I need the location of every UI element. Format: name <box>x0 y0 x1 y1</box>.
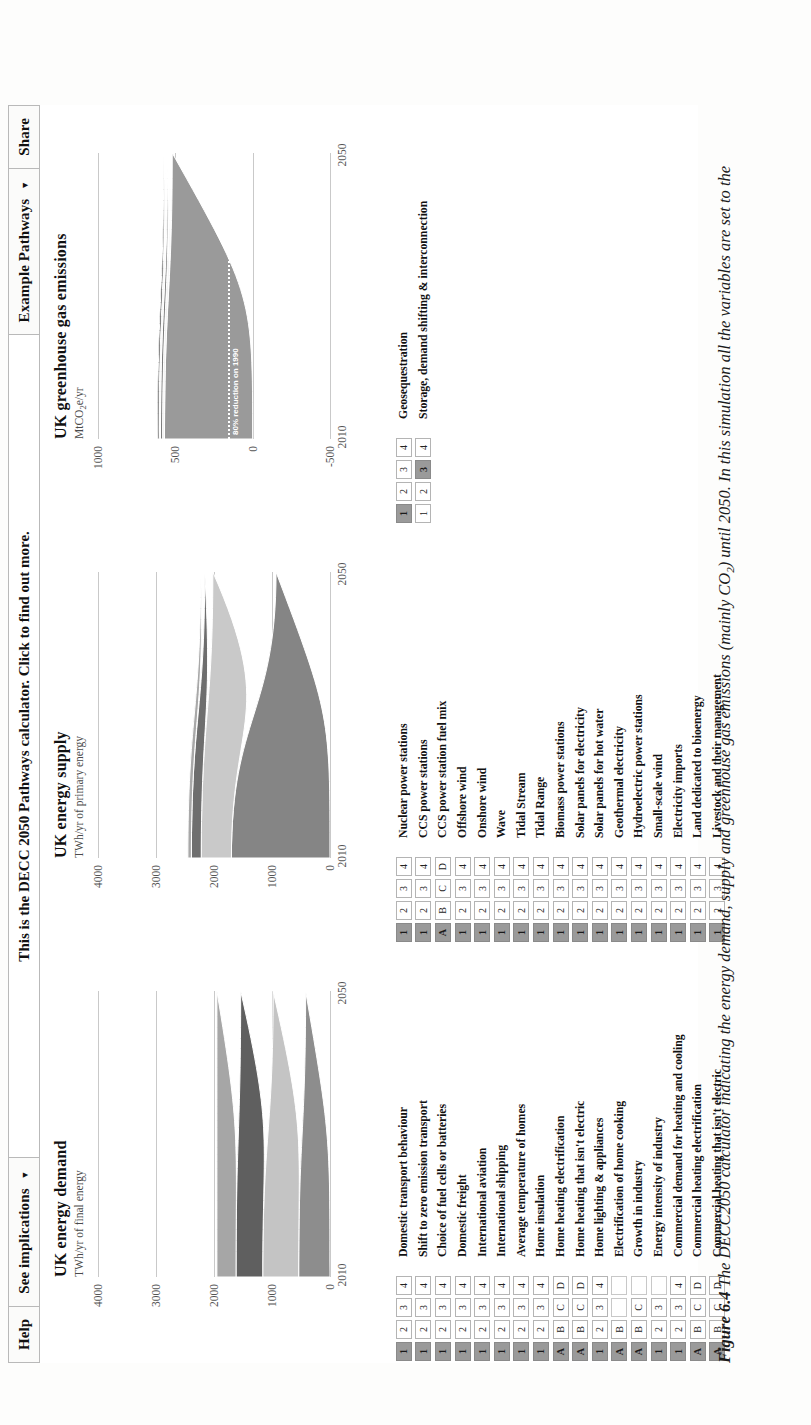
lever-option-button[interactable]: 2 <box>690 901 706 920</box>
lever-option-button[interactable]: 2 <box>474 901 490 920</box>
lever-option-button[interactable]: 1 <box>631 923 647 942</box>
lever-option-button[interactable]: 2 <box>670 1320 686 1339</box>
lever-option-button[interactable]: 2 <box>533 901 549 920</box>
lever-option-button[interactable]: 1 <box>651 1342 667 1361</box>
lever-option-button[interactable]: 1 <box>455 1342 471 1361</box>
lever-option-button[interactable]: 2 <box>553 901 569 920</box>
lever-option-button[interactable]: 2 <box>396 482 412 501</box>
lever-option-button[interactable]: A <box>690 1342 706 1361</box>
lever-option-button[interactable]: 1 <box>455 923 471 942</box>
lever-option-button[interactable]: A <box>553 1342 569 1361</box>
lever-option-button[interactable]: 1 <box>435 1342 451 1361</box>
lever-option-button[interactable]: A <box>435 923 451 942</box>
lever-option-button[interactable]: 3 <box>631 879 647 898</box>
lever-option-button[interactable]: 1 <box>415 1342 431 1361</box>
lever-option-button[interactable]: D <box>553 1276 569 1295</box>
lever-option-button[interactable]: 2 <box>435 1320 451 1339</box>
lever-option-button[interactable]: 4 <box>396 438 412 457</box>
lever-option-button[interactable]: 4 <box>690 857 706 876</box>
lever-option-button[interactable]: 2 <box>494 1320 510 1339</box>
lever-option-button[interactable]: B <box>631 1320 647 1339</box>
lever-option-button[interactable]: D <box>690 1276 706 1295</box>
lever-option-button[interactable]: 1 <box>611 923 627 942</box>
lever-option-button[interactable]: 4 <box>415 1276 431 1295</box>
lever-option-button[interactable]: 4 <box>396 1276 412 1295</box>
lever-option-button[interactable]: C <box>690 1298 706 1317</box>
lever-option-button[interactable]: 4 <box>455 1276 471 1295</box>
lever-option-button[interactable]: 3 <box>651 1298 667 1317</box>
lever-option-button[interactable]: 4 <box>396 857 412 876</box>
lever-option-button[interactable]: 2 <box>494 901 510 920</box>
lever-option-button[interactable]: 2 <box>592 1320 608 1339</box>
lever-option-button[interactable]: 3 <box>513 1298 529 1317</box>
lever-option-button[interactable]: D <box>435 857 451 876</box>
lever-option-button[interactable]: 3 <box>396 1298 412 1317</box>
lever-option-button[interactable]: 4 <box>474 857 490 876</box>
lever-option-button[interactable]: 1 <box>415 923 431 942</box>
lever-option-button[interactable]: 1 <box>513 1342 529 1361</box>
lever-option-button[interactable]: 3 <box>533 879 549 898</box>
lever-option-button[interactable]: 4 <box>513 857 529 876</box>
lever-option-button[interactable]: 2 <box>474 1320 490 1339</box>
lever-option-button[interactable]: 4 <box>651 857 667 876</box>
intro-banner[interactable]: This is the DECC 2050 Pathways calculato… <box>9 334 39 1157</box>
lever-option-button[interactable]: 4 <box>611 857 627 876</box>
lever-option-button[interactable]: A <box>572 1342 588 1361</box>
lever-option-button[interactable]: A <box>631 1342 647 1361</box>
lever-option-button[interactable]: 1 <box>670 923 686 942</box>
lever-option-button[interactable]: 1 <box>533 923 549 942</box>
lever-option-button[interactable]: 3 <box>474 879 490 898</box>
lever-option-button[interactable]: 3 <box>474 1298 490 1317</box>
lever-option-button[interactable]: C <box>553 1298 569 1317</box>
lever-option-button[interactable]: 4 <box>474 1276 490 1295</box>
lever-option-button[interactable]: 4 <box>435 1276 451 1295</box>
lever-option-button[interactable]: 3 <box>690 879 706 898</box>
lever-option-button[interactable]: 2 <box>651 1320 667 1339</box>
lever-option-button[interactable]: 2 <box>533 1320 549 1339</box>
lever-option-button[interactable]: 3 <box>611 879 627 898</box>
lever-option-button[interactable]: 1 <box>553 923 569 942</box>
lever-option-button[interactable]: 2 <box>455 901 471 920</box>
lever-option-button[interactable]: 1 <box>513 923 529 942</box>
lever-option-button[interactable]: 3 <box>572 879 588 898</box>
lever-option-button[interactable]: 3 <box>455 1298 471 1317</box>
lever-option-button[interactable]: 2 <box>631 901 647 920</box>
lever-option-button[interactable]: 3 <box>513 879 529 898</box>
lever-option-button[interactable]: 4 <box>494 857 510 876</box>
lever-option-button[interactable]: 4 <box>670 857 686 876</box>
see-implications-button[interactable]: See implications ▼ <box>9 1157 39 1305</box>
lever-option-button[interactable]: 2 <box>651 901 667 920</box>
lever-option-button[interactable]: C <box>631 1298 647 1317</box>
lever-option-button[interactable]: 2 <box>455 1320 471 1339</box>
lever-option-button[interactable]: 4 <box>592 1276 608 1295</box>
lever-option-button[interactable]: 4 <box>670 1276 686 1295</box>
lever-option-button[interactable]: 3 <box>396 460 412 479</box>
lever-option-button[interactable]: 1 <box>494 923 510 942</box>
lever-option-button[interactable]: 3 <box>415 460 431 479</box>
lever-option-button[interactable]: D <box>572 1276 588 1295</box>
lever-option-button[interactable]: 4 <box>533 1276 549 1295</box>
lever-option-button[interactable]: 1 <box>690 923 706 942</box>
lever-option-button[interactable]: 1 <box>670 1342 686 1361</box>
lever-option-button[interactable]: 4 <box>592 857 608 876</box>
lever-option-button[interactable]: 2 <box>415 1320 431 1339</box>
lever-option-button[interactable]: B <box>553 1320 569 1339</box>
lever-option-button[interactable]: C <box>435 879 451 898</box>
lever-option-button[interactable]: 4 <box>415 857 431 876</box>
lever-option-button[interactable]: 1 <box>396 923 412 942</box>
lever-option-button[interactable]: 3 <box>592 879 608 898</box>
example-pathways-button[interactable]: Example Pathways ▼ <box>9 168 39 335</box>
lever-option-button[interactable]: 3 <box>435 1298 451 1317</box>
lever-option-button[interactable]: C <box>572 1298 588 1317</box>
lever-option-button[interactable]: 1 <box>533 1342 549 1361</box>
lever-option-button[interactable]: 4 <box>533 857 549 876</box>
lever-option-button[interactable]: 2 <box>513 901 529 920</box>
lever-option-button[interactable]: 2 <box>572 901 588 920</box>
lever-option-button[interactable]: 2 <box>415 482 431 501</box>
lever-option-button[interactable]: 4 <box>513 1276 529 1295</box>
lever-option-button[interactable]: 1 <box>592 923 608 942</box>
lever-option-button[interactable]: 2 <box>592 901 608 920</box>
lever-option-button[interactable]: 2 <box>415 901 431 920</box>
lever-option-button[interactable]: 1 <box>415 504 431 523</box>
lever-option-button[interactable]: 1 <box>651 923 667 942</box>
